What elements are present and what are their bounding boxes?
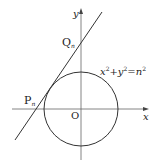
y-axis-arrow-icon [79,8,83,14]
eq-sup3: 2 [142,65,146,72]
tangent-line [15,12,102,140]
y-axis-label: y [72,8,79,19]
eq-equals: = [127,66,135,77]
point-q-subscript: n [71,42,75,49]
origin-label: O [71,110,79,121]
eq-plus: + [109,66,117,77]
point-q-letter: Q [62,36,71,49]
coordinate-diagram: y x O Qn Pn x2+y2=n2 [0,0,161,166]
point-p-subscript: n [31,100,35,107]
point-q-label: Qn [62,36,75,49]
x-axis-label: x [143,111,149,122]
point-p-label: Pn [24,94,35,107]
circle-equation: x2+y2=n2 [100,65,146,77]
